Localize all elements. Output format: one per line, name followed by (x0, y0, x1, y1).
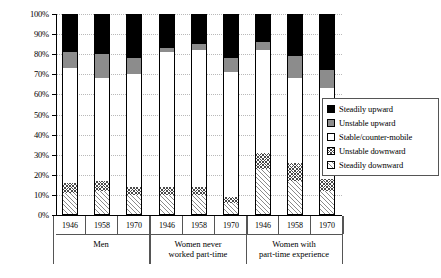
bar-segment-sd (191, 195, 207, 215)
bar-segment-sc (223, 72, 239, 197)
y-axis-tick (52, 54, 57, 55)
x-axis-group-label: Men (53, 234, 149, 264)
x-axis-group-label: Women withpart-time experience (246, 234, 342, 264)
stacked-bar[interactable] (126, 14, 142, 215)
y-axis-tick-label: 100% (30, 9, 49, 19)
bar-segment-su (94, 14, 110, 54)
bar-segment-sd (223, 203, 239, 215)
bar-segment-ud (94, 181, 110, 191)
bar-segment-sc (191, 50, 207, 187)
bar-segment-su (255, 14, 271, 42)
legend-swatch-uu (327, 119, 335, 127)
bar-segment-su (319, 14, 335, 70)
group-separator (53, 216, 54, 264)
legend-label: Unstable downward (339, 146, 406, 156)
y-axis-tick (52, 175, 57, 176)
bar-segment-sc (159, 52, 175, 187)
x-axis-category-band: 194619581970194619581970194619581970 (56, 216, 342, 234)
bar-segment-ud (126, 187, 142, 195)
legend-swatch-sc (327, 133, 335, 141)
y-axis-tick (52, 155, 57, 156)
stacked-bar[interactable] (191, 14, 207, 215)
y-axis-tick-label: 30% (34, 150, 49, 160)
y-axis-tick (52, 74, 57, 75)
x-axis-year-label: 1958 (182, 216, 215, 234)
bar-segment-su (191, 14, 207, 44)
stacked-bar-chart: 0%10%20%30%40%50%60%70%80%90%100% 194619… (0, 0, 441, 278)
y-axis-tick (52, 195, 57, 196)
legend-item[interactable]: Unstable upward (327, 116, 434, 130)
bar-segment-ud (62, 183, 78, 193)
legend-label: Steadily upward (339, 104, 393, 114)
y-axis-tick (52, 34, 57, 35)
x-axis-year-label: 1970 (117, 216, 151, 234)
x-axis-year-label: 1946 (150, 216, 183, 234)
bar-segment-sd (255, 169, 271, 215)
x-axis-year-label: 1946 (53, 216, 86, 234)
bar-segment-su (223, 14, 239, 58)
y-axis-tick (52, 94, 57, 95)
stacked-bar[interactable] (94, 14, 110, 215)
bar-segment-su (159, 14, 175, 48)
x-axis-year-label: 1958 (278, 216, 311, 234)
legend-swatch-sd (327, 161, 335, 169)
y-axis-tick-label: 70% (34, 69, 49, 79)
bar-segment-sc (255, 50, 271, 153)
bar-segment-sc (62, 68, 78, 183)
stacked-bar[interactable] (255, 14, 271, 215)
bar-segment-sd (94, 191, 110, 215)
legend-label: Steadily downward (339, 160, 403, 170)
legend-item[interactable]: Steadily downward (327, 158, 434, 172)
legend-item[interactable]: Unstable downward (327, 144, 434, 158)
y-axis-tick-label: 80% (34, 49, 49, 59)
bar-segment-ud (287, 163, 303, 181)
bar-segment-sd (159, 195, 175, 215)
stacked-bar[interactable] (159, 14, 175, 215)
group-separator (342, 216, 343, 264)
x-axis-year-label: 1970 (310, 216, 344, 234)
y-axis-tick-label: 40% (34, 130, 49, 140)
y-axis-tick-label: 10% (34, 190, 49, 200)
bar-segment-ud (255, 153, 271, 169)
x-axis-year-label: 1958 (85, 216, 118, 234)
bar-segment-uu (223, 58, 239, 72)
legend-label: Unstable upward (339, 118, 395, 128)
y-axis-tick-label: 50% (34, 110, 49, 120)
y-axis-tick (52, 14, 57, 15)
bar-segment-sc (287, 78, 303, 162)
y-axis-tick-label: 0% (38, 210, 49, 220)
x-axis-group-title: Men (53, 234, 149, 249)
bar-segment-ud (191, 187, 207, 195)
bar-segment-sd (319, 191, 335, 215)
x-axis-group-title: Women withpart-time experience (246, 234, 342, 259)
legend-swatch-ud (327, 147, 335, 155)
x-axis-group-title: Women neverworked part-time (150, 234, 246, 259)
y-axis-tick-label: 90% (34, 29, 49, 39)
legend-item[interactable]: Stable/counter-mobile (327, 130, 434, 144)
legend-swatch-su (327, 105, 335, 113)
bar-segment-uu (319, 70, 335, 88)
bar-segment-su (287, 14, 303, 56)
bar-segment-su (62, 14, 78, 52)
legend-label: Stable/counter-mobile (339, 132, 412, 142)
stacked-bar[interactable] (287, 14, 303, 215)
chart-legend: Steadily upwardUnstable upwardStable/cou… (322, 98, 439, 176)
bar-segment-uu (126, 58, 142, 74)
legend-item[interactable]: Steadily upward (327, 102, 434, 116)
group-separator (246, 216, 247, 264)
y-axis-tick (52, 135, 57, 136)
stacked-bar[interactable] (223, 14, 239, 215)
stacked-bar[interactable] (62, 14, 78, 215)
bar-segment-ud (159, 187, 175, 195)
plot-area: 0%10%20%30%40%50%60%70%80%90%100% (56, 14, 342, 216)
bar-segment-sc (94, 78, 110, 181)
bar-segment-sd (126, 195, 142, 215)
y-axis-tick (52, 115, 57, 116)
bar-segment-uu (94, 54, 110, 78)
x-axis-year-label: 1946 (246, 216, 279, 234)
bar-segment-su (126, 14, 142, 58)
bar-segment-sd (62, 193, 78, 215)
bar-segment-uu (255, 42, 271, 50)
bar-segment-sd (287, 181, 303, 215)
bar-segment-uu (62, 52, 78, 68)
